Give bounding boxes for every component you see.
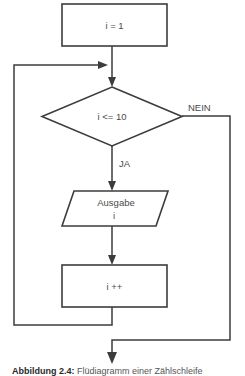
flowchart-diagram: i = 1 i <= 10 NEIN JA Ausgabe i i ++ Abb… — [0, 0, 245, 376]
edge-line — [112, 116, 230, 355]
arrow-head-icon — [107, 352, 117, 364]
figure-caption-prefix: Abbildung 2.4: — [12, 367, 75, 376]
figure-caption-body: Flüdiagramm einer Zählschleife — [77, 367, 203, 376]
edge-init-to-condition — [108, 46, 116, 87]
node-output-label-variable: i — [113, 210, 115, 221]
node-condition[interactable]: i <= 10 — [42, 87, 182, 146]
edge-label-yes: JA — [119, 158, 131, 169]
edge-label-no: NEIN — [188, 102, 211, 113]
node-increment[interactable]: i ++ — [62, 265, 167, 307]
edge-output-to-increment — [108, 226, 116, 265]
node-init-label: i = 1 — [105, 20, 123, 31]
edge-condition-yes-to-output — [108, 146, 116, 191]
node-condition-label: i <= 10 — [97, 111, 126, 122]
arrow-head-icon — [108, 255, 116, 265]
arrow-head-icon — [108, 77, 116, 87]
arrow-head-icon — [108, 181, 116, 191]
arrow-head-icon — [98, 61, 108, 69]
node-init[interactable]: i = 1 — [62, 4, 167, 46]
edge-condition-no-to-exit — [107, 116, 230, 364]
figure-caption: Abbildung 2.4: Flüdiagramm einer Zählsch… — [0, 367, 245, 376]
node-increment-label: i ++ — [107, 281, 123, 292]
flowchart-canvas: i = 1 i <= 10 NEIN JA Ausgabe i i ++ — [0, 0, 245, 376]
node-output-label-primary: Ausgabe — [97, 197, 135, 208]
figure-caption-text: Abbildung 2.4: Flüdiagramm einer Zählsch… — [12, 367, 203, 376]
node-output[interactable]: Ausgabe i — [62, 191, 168, 226]
